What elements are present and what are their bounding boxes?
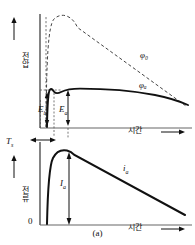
lower-y-arrow-icon: [11, 155, 16, 178]
Ts-measure-arrow: [30, 138, 56, 143]
upper-y-arrow-icon: [11, 17, 16, 40]
upper-x-axis-label: 시간: [128, 124, 142, 135]
Ia-measure-arrow: [67, 152, 72, 225]
figure-svg: [0, 0, 195, 245]
ia-curve: [47, 150, 185, 224]
figure-container: 전압 시간 φ₀ φₐ Eb Ea Ts 전류 시간 0 Ia ia (a): [0, 0, 195, 245]
figure-caption: (a): [0, 228, 195, 238]
lower-y-axis-label: 전류: [20, 186, 28, 202]
upper-x-arrow-icon: [161, 129, 185, 134]
Ea-label: Ea: [59, 104, 68, 116]
phia-curve-label: φₐ: [139, 80, 147, 90]
Eb-label: Eb: [38, 104, 47, 116]
Ts-label: Ts: [6, 136, 13, 148]
Ia-label: Ia: [60, 178, 66, 190]
upper-y-axis-label: 전압: [20, 52, 28, 68]
ia-curve-label: ia: [123, 163, 129, 175]
phi0-curve-label: φ₀: [140, 50, 148, 60]
origin-label: 0: [28, 216, 33, 226]
